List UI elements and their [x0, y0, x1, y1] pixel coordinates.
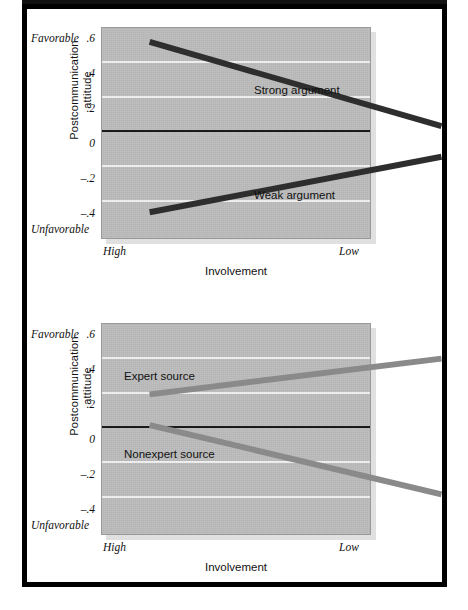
series-label-strong-argument: Strong argument [254, 84, 340, 96]
chart-bottom: Postcommunication attitude Favorable Unf… [27, 309, 452, 593]
x-tick-high-bottom: High [103, 541, 126, 553]
y-tick-labels-bottom: .6 .4 .2 0 –.2 –.4 [51, 323, 95, 535]
y-tick-neg0p2-bottom: –.2 [55, 468, 95, 480]
y-tick-neg0p2-top: –.2 [55, 172, 95, 184]
x-tick-low-top: Low [339, 245, 359, 257]
series-label-nonexpert-source: Nonexpert source [124, 448, 215, 460]
x-axis-title-bottom: Involvement [101, 561, 371, 573]
y-tick-0p6-top: .6 [55, 32, 95, 44]
y-tick-0p2-top: .2 [55, 102, 95, 114]
series-lines-bottom [102, 324, 370, 534]
chart-panel-top: Postcommunication attitude Favorable Unf… [27, 13, 442, 297]
y-tick-0p6-bottom: .6 [55, 328, 95, 340]
series-label-weak-argument: Weak argument [254, 189, 335, 201]
plot-area-bottom: Expert source Nonexpert source [101, 323, 371, 535]
figure-frame: Postcommunication attitude Favorable Unf… [22, 4, 447, 587]
x-tick-high-top: High [103, 245, 126, 257]
figure-page: Postcommunication attitude Favorable Unf… [0, 0, 468, 610]
y-tick-0-top: 0 [55, 137, 95, 149]
y-tick-neg0p4-bottom: –.4 [55, 503, 95, 515]
y-tick-0p2-bottom: .2 [55, 398, 95, 410]
x-tick-low-bottom: Low [339, 541, 359, 553]
series-lines-top [102, 28, 370, 238]
series-label-expert-source: Expert source [124, 370, 195, 382]
chart-panel-bottom: Postcommunication attitude Favorable Unf… [27, 309, 442, 593]
y-tick-0-bottom: 0 [55, 433, 95, 445]
plot-area-top: Strong argument Weak argument [101, 27, 371, 239]
chart-top: Postcommunication attitude Favorable Unf… [27, 13, 452, 297]
x-axis-title-top: Involvement [101, 265, 371, 277]
y-tick-0p4-bottom: .4 [55, 363, 95, 375]
y-tick-neg0p4-top: –.4 [55, 207, 95, 219]
y-tick-0p4-top: .4 [55, 67, 95, 79]
y-tick-labels-top: .6 .4 .2 0 –.2 –.4 [51, 27, 95, 239]
series-line-weak-argument [150, 157, 442, 212]
